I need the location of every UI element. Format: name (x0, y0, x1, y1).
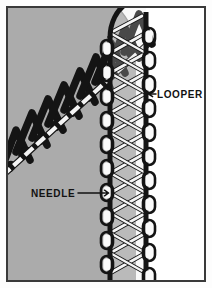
illustration-stage: LOOPER NEEDLE (0, 0, 212, 288)
label-looper: LOOPER (149, 89, 203, 100)
label-needle-text: NEEDLE (31, 188, 75, 199)
figure-container: LOOPER NEEDLE (0, 0, 212, 288)
stitch-diagram-svg: LOOPER NEEDLE (0, 0, 212, 288)
label-looper-text: LOOPER (157, 89, 203, 100)
vertical-seam-column (101, 4, 155, 285)
